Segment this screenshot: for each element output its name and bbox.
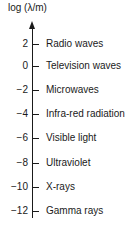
tick-row: −2 Microwaves (0, 84, 139, 96)
tick-label: Gamma rays (46, 205, 103, 217)
tick-row: −10 X-rays (0, 181, 139, 193)
tick-mark (33, 187, 39, 188)
tick-row: −4 Infra-red radiation (0, 108, 139, 120)
tick-value: 2 (22, 38, 28, 50)
tick-mark (33, 114, 39, 115)
tick-label: Microwaves (46, 84, 99, 96)
tick-value: −2 (17, 84, 28, 96)
tick-label: X-rays (46, 181, 75, 193)
tick-row: −12 Gamma rays (0, 205, 139, 217)
tick-value: −8 (17, 157, 28, 169)
axis-title: log (λ/m) (8, 2, 47, 13)
tick-value: −4 (17, 108, 28, 120)
tick-label: Visible light (46, 132, 96, 144)
tick-value: −6 (17, 132, 28, 144)
tick-mark (33, 163, 39, 164)
tick-row: −6 Visible light (0, 132, 139, 144)
tick-value: −12 (11, 205, 28, 217)
tick-value: −10 (11, 181, 28, 193)
tick-mark (33, 44, 39, 45)
tick-row: −8 Ultraviolet (0, 157, 139, 169)
tick-label: Ultraviolet (46, 157, 90, 169)
tick-mark (33, 138, 39, 139)
tick-row: 2 Radio waves (0, 38, 139, 50)
tick-mark (33, 211, 39, 212)
tick-label: Infra-red radiation (46, 108, 125, 120)
tick-mark (33, 66, 39, 67)
tick-row: 0 Television waves (0, 60, 139, 72)
tick-mark (33, 90, 39, 91)
tick-value: 0 (22, 60, 28, 72)
tick-label: Radio waves (46, 38, 103, 50)
tick-label: Television waves (46, 60, 121, 72)
